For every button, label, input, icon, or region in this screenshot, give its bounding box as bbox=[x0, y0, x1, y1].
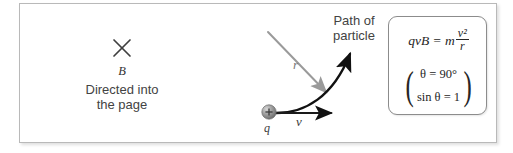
condition-group: ( θ = 90° sin θ = 1 ) bbox=[389, 67, 488, 105]
radius-vector-label: r bbox=[293, 57, 298, 73]
main-equation-lhs: qvB = m bbox=[408, 33, 455, 48]
magnetic-field-symbol-label: B bbox=[42, 64, 202, 79]
fraction-denominator: r bbox=[456, 39, 469, 52]
magnetic-field-caption: Directed into the page bbox=[42, 82, 202, 113]
x-cross-icon bbox=[114, 40, 130, 56]
condition-sine: sin θ = 1 bbox=[417, 90, 460, 105]
equation-fraction: v²r bbox=[456, 27, 469, 52]
equation-callout-box: qvB = mv²r ( θ = 90° sin θ = 1 ) bbox=[388, 16, 487, 115]
charge-label: q bbox=[264, 121, 270, 136]
velocity-vector-label: v bbox=[296, 114, 302, 130]
right-paren: ) bbox=[464, 70, 472, 101]
particle-path-arrow bbox=[276, 54, 350, 113]
main-equation: qvB = mv²r bbox=[389, 27, 488, 52]
charged-particle-sphere bbox=[262, 105, 276, 119]
fraction-numerator: v² bbox=[456, 27, 469, 39]
left-paren: ( bbox=[405, 70, 413, 101]
condition-rows: θ = 90° sin θ = 1 bbox=[416, 67, 461, 105]
condition-angle: θ = 90° bbox=[417, 67, 460, 82]
path-of-particle-label: Path of particle bbox=[320, 13, 388, 44]
